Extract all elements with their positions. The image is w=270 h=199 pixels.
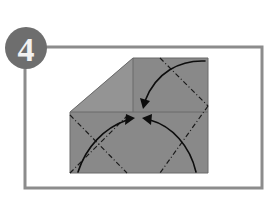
origami-step-figure: 4	[0, 0, 270, 199]
diagram-canvas: 4	[0, 0, 270, 199]
step-number-label: 4	[18, 31, 35, 68]
step-number-badge: 4	[5, 27, 47, 69]
